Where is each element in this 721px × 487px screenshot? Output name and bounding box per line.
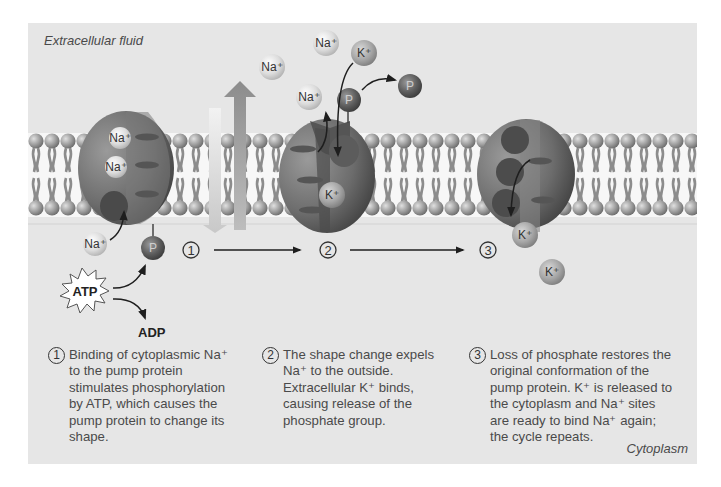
step-2-caption-text: The shape change expels Na⁺ to the outsi… — [262, 347, 457, 429]
cytoplasm-label: Cytoplasm — [627, 441, 688, 456]
step-3-caption-text: Loss of phosphate restores the original … — [469, 347, 694, 445]
phosphate-label: P — [345, 93, 353, 107]
step-3-caption: 3 Loss of phosphate restores the origina… — [469, 347, 694, 445]
step-1-cytoplasm: Na⁺ P ATP ADP — [60, 212, 166, 340]
step-3-number: 3 — [484, 243, 491, 258]
step-1-caption: 1 Binding of cytoplasmic Na⁺ to the pump… — [48, 347, 248, 445]
step-2-number: 2 — [324, 243, 331, 258]
extracellular-label: Extracellular fluid — [44, 33, 144, 48]
phosphate-label: P — [406, 79, 414, 93]
k-ion-label: K⁺ — [357, 46, 371, 60]
step-2-caption: 2 The shape change expels Na⁺ to the out… — [262, 347, 457, 429]
na-ion-label: Na⁺ — [105, 160, 126, 174]
step-2-caption-number: 2 — [262, 347, 279, 364]
pump-protein-step-3: K⁺ — [477, 119, 575, 248]
step-3-caption-number: 3 — [469, 347, 486, 364]
k-ion-label: K⁺ — [325, 188, 339, 202]
na-ion-label: Na⁺ — [261, 60, 282, 74]
k-ion-label: K⁺ — [545, 265, 559, 279]
na-ion-label: Na⁺ — [84, 237, 105, 251]
k-ion-label: K⁺ — [518, 228, 532, 242]
step-1-caption-text: Binding of cytoplasmic Na⁺ to the pump p… — [48, 347, 248, 445]
na-ion-label: Na⁺ — [315, 36, 336, 50]
phosphate-label: P — [149, 241, 157, 255]
atp-label: ATP — [72, 284, 97, 299]
adp-label: ADP — [138, 325, 166, 340]
na-ion-label: Na⁺ — [109, 131, 130, 145]
step-1-number: 1 — [187, 243, 194, 258]
step-flow: 1 2 3 — [183, 242, 496, 258]
na-ion-label: Na⁺ — [298, 90, 319, 104]
step-1-caption-number: 1 — [48, 347, 65, 364]
